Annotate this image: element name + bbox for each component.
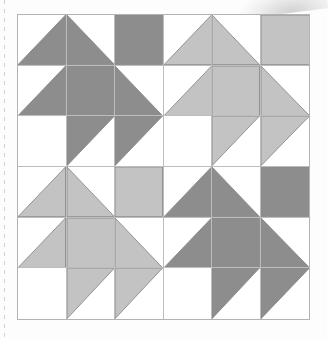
quilt-patch-r3-c3 bbox=[164, 167, 213, 218]
triangle-top-left-patch bbox=[115, 116, 163, 166]
triangle-bottom-left-patch bbox=[115, 218, 163, 268]
triangle-bottom-right-patch bbox=[18, 167, 66, 217]
quilt-patch-r5-c0 bbox=[18, 268, 67, 319]
triangle-bottom-left-patch bbox=[67, 167, 115, 217]
square-full-patch bbox=[67, 218, 115, 268]
square-full-patch bbox=[115, 167, 163, 217]
triangle-bottom-left-patch bbox=[261, 218, 310, 268]
triangle-bottom-right-patch bbox=[18, 218, 66, 268]
quilt-patch-r3-c1 bbox=[67, 167, 116, 218]
square-full-patch bbox=[261, 15, 310, 65]
quilt-patch-r5-c2 bbox=[115, 268, 164, 319]
quilt-patch-r3-c2 bbox=[115, 167, 164, 218]
triangle-bottom-left-patch bbox=[261, 66, 310, 116]
quilt-patch-r2-c2 bbox=[115, 116, 164, 167]
square-full-patch bbox=[115, 15, 163, 65]
quilt-patch-r4-c1 bbox=[67, 218, 116, 269]
quilt-patch-r2-c3 bbox=[164, 116, 213, 167]
triangle-bottom-left-patch bbox=[212, 167, 260, 217]
triangle-bottom-left-patch bbox=[115, 66, 163, 116]
quilt-patch-r3-c5 bbox=[261, 167, 310, 218]
quilt-patch-r1-c1 bbox=[67, 66, 116, 117]
quilt-patch-r4-c3 bbox=[164, 218, 213, 269]
quilt-patch-r4-c0 bbox=[18, 218, 67, 269]
triangle-top-left-patch bbox=[67, 116, 115, 166]
triangle-bottom-right-patch bbox=[164, 167, 212, 217]
quilt-patch-r0-c2 bbox=[115, 15, 164, 66]
quilt-patch-r5-c3 bbox=[164, 268, 213, 319]
quilt-patch-r1-c5 bbox=[261, 66, 310, 117]
quilt-patch-r0-c0 bbox=[18, 15, 67, 66]
triangle-bottom-right-patch bbox=[18, 15, 66, 65]
quilt-frame bbox=[17, 14, 310, 320]
square-full-patch bbox=[212, 218, 260, 268]
square-full-patch bbox=[67, 66, 115, 116]
triangle-top-left-patch bbox=[67, 268, 115, 319]
quilt-patch-r1-c0 bbox=[18, 66, 67, 117]
quilt-patch-r2-c5 bbox=[261, 116, 310, 167]
quilt-grid bbox=[18, 15, 309, 319]
quilt-patch-r2-c0 bbox=[18, 116, 67, 167]
square-full-patch bbox=[261, 167, 310, 217]
page-edge-dashes-artifact bbox=[4, 0, 5, 339]
triangle-top-left-patch bbox=[115, 268, 163, 319]
quilt-patch-r4-c5 bbox=[261, 218, 310, 269]
triangle-bottom-right-patch bbox=[164, 218, 212, 268]
triangle-bottom-left-patch bbox=[67, 15, 115, 65]
triangle-bottom-right-patch bbox=[18, 66, 66, 116]
quilt-patch-r3-c4 bbox=[212, 167, 261, 218]
triangle-top-left-patch bbox=[212, 116, 260, 166]
quilt-patch-r1-c2 bbox=[115, 66, 164, 117]
triangle-bottom-right-patch bbox=[164, 66, 212, 116]
triangle-top-left-patch bbox=[261, 268, 310, 319]
square-full-patch bbox=[212, 66, 260, 116]
quilt-patch-r2-c4 bbox=[212, 116, 261, 167]
quilt-patch-r3-c0 bbox=[18, 167, 67, 218]
quilt-patch-r0-c1 bbox=[67, 15, 116, 66]
quilt-patch-r2-c1 bbox=[67, 116, 116, 167]
quilt-patch-r5-c4 bbox=[212, 268, 261, 319]
quilt-patch-r1-c3 bbox=[164, 66, 213, 117]
triangle-top-left-patch bbox=[261, 116, 310, 166]
triangle-bottom-left-patch bbox=[212, 15, 260, 65]
quilt-patch-r0-c3 bbox=[164, 15, 213, 66]
quilt-patch-r5-c1 bbox=[67, 268, 116, 319]
quilt-patch-r5-c5 bbox=[261, 268, 310, 319]
triangle-top-left-patch bbox=[212, 268, 260, 319]
quilt-patch-r0-c5 bbox=[261, 15, 310, 66]
triangle-bottom-right-patch bbox=[164, 15, 212, 65]
quilt-patch-r1-c4 bbox=[212, 66, 261, 117]
quilt-patch-r4-c4 bbox=[212, 218, 261, 269]
quilt-patch-r0-c4 bbox=[212, 15, 261, 66]
quilt-patch-r4-c2 bbox=[115, 218, 164, 269]
